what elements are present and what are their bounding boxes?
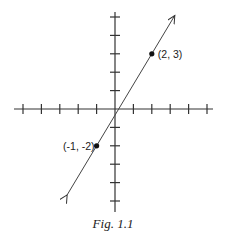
figure-caption: Fig. 1.1 [92,216,134,231]
plotted-points: (2, 3)(-1, -2) [63,48,182,152]
point-label: (-1, -2) [63,140,95,152]
point-marker [94,143,99,148]
line-through-points [67,15,175,194]
coordinate-plane: (2, 3)(-1, -2) Fig. 1.1 [0,0,227,240]
point-marker [149,51,154,56]
point-label: (2, 3) [158,48,183,60]
